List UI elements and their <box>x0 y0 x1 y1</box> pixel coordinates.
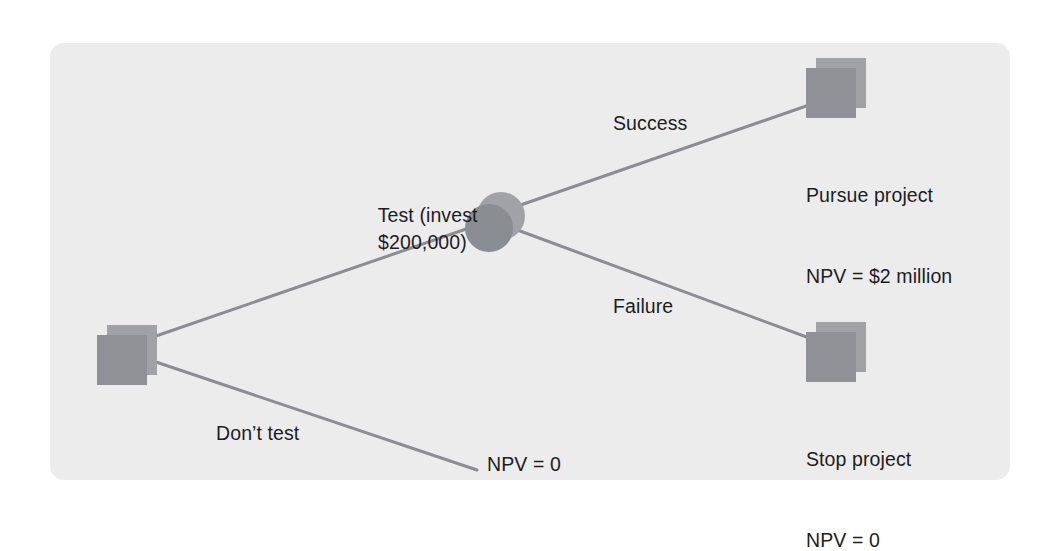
stop-project-caption: Stop project NPV = 0 <box>806 392 911 551</box>
branch-label-failure: Failure <box>613 293 673 320</box>
pursue-node-square <box>806 68 856 118</box>
pursue-project-node <box>806 58 866 118</box>
edge-failure <box>512 228 812 339</box>
pursue-project-name: Pursue project <box>806 182 952 209</box>
pursue-project-npv: NPV = $2 million <box>806 263 952 290</box>
branch-label-success: Success <box>613 110 687 137</box>
branch-label-dont-test: Don’t test <box>216 420 299 447</box>
stop-project-npv: NPV = 0 <box>806 527 911 551</box>
branch-label-test-line1: Test (invest <box>378 204 478 226</box>
stop-project-name: Stop project <box>806 446 911 473</box>
branch-label-test-line2: $200,000) <box>378 231 467 253</box>
edge-dont-test <box>150 360 477 470</box>
pursue-project-caption: Pursue project NPV = $2 million <box>806 128 952 344</box>
dont-test-payoff-label: NPV = 0 <box>487 451 561 478</box>
root-decision-node <box>97 325 157 385</box>
branch-label-test: Test (invest $200,000) <box>356 175 478 283</box>
root-node-square <box>97 335 147 385</box>
